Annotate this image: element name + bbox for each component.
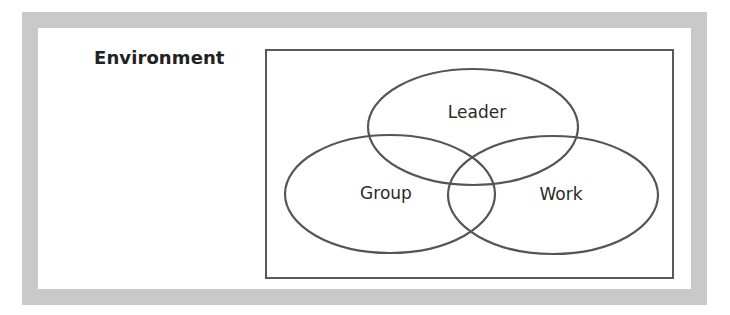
- work-label: Work: [539, 184, 582, 204]
- venn-diagram: Leader Group Work: [0, 0, 730, 315]
- group-label: Group: [360, 183, 412, 203]
- leader-label: Leader: [448, 102, 506, 122]
- leader-ellipse: [368, 69, 578, 185]
